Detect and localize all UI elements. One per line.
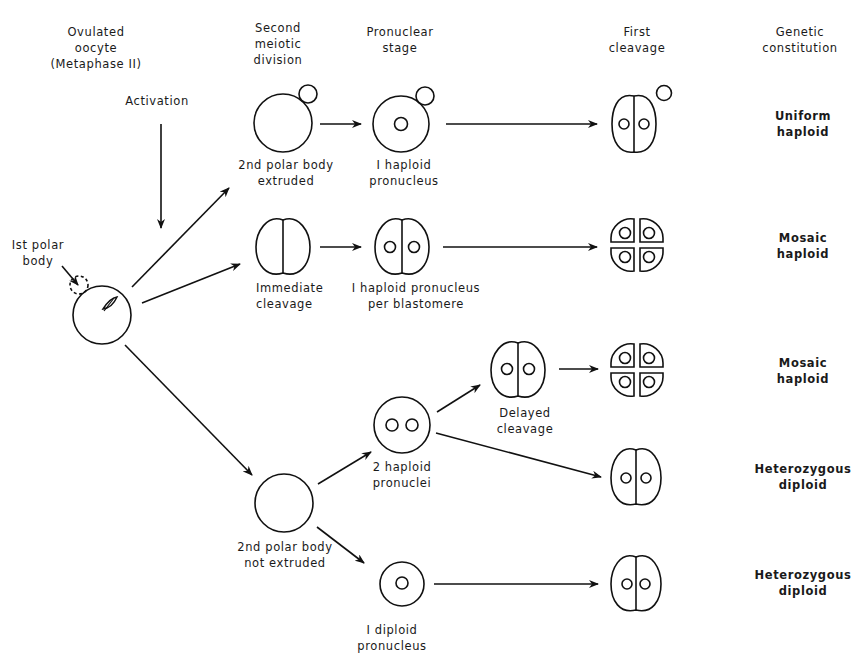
label-line: pronuclei: [373, 475, 432, 491]
header-line: Second: [254, 20, 303, 36]
header-line: Pronuclear: [366, 24, 433, 40]
label-one-diploid: I diploid pronucleus: [357, 622, 426, 654]
label-line: not extruded: [237, 555, 332, 571]
parthenogenesis-diagram: Ovulated oocyte (Metaphase II) Second me…: [0, 0, 868, 671]
outcome-line: diploid: [755, 477, 852, 493]
label-line: Delayed: [497, 405, 554, 421]
header-line: division: [254, 52, 303, 68]
polar-body-pointer-arrow: [62, 266, 78, 285]
label-line: pronucleus: [369, 173, 438, 189]
label-line: I diploid: [357, 622, 426, 638]
label-one-haploid: I haploid pronucleus: [369, 157, 438, 189]
header-line: (Metaphase II): [50, 56, 141, 72]
header-pronuclear-stage: Pronuclear stage: [366, 24, 433, 56]
header-ovulated-oocyte: Ovulated oocyte (Metaphase II): [50, 24, 141, 72]
outcome-line: Heterozygous: [755, 567, 852, 583]
outcome-5: Heterozygous diploid: [755, 567, 852, 599]
header-line: meiotic: [254, 36, 303, 52]
cell-extruded: [254, 85, 317, 152]
label-two-haploid: 2 haploid pronuclei: [373, 459, 432, 491]
two-cell-delayed: [491, 342, 545, 397]
label-line: body: [12, 253, 64, 269]
two-cell-heterozygous-2: [611, 556, 661, 611]
label-line: Ist polar: [12, 237, 64, 253]
two-cell-heterozygous-1: [611, 449, 661, 505]
label-per-blastomere: I haploid pronucleus per blastomere: [352, 280, 480, 312]
header-first-cleavage: First cleavage: [609, 24, 666, 56]
label-line: Immediate: [256, 280, 323, 296]
label-line: extruded: [238, 173, 333, 189]
label-extruded: 2nd polar body extruded: [238, 157, 333, 189]
outcome-line: Mosaic: [777, 355, 829, 371]
outcome-line: haploid: [777, 246, 829, 262]
label-line: I haploid: [369, 157, 438, 173]
header-genetic-constitution: Genetic constitution: [762, 24, 837, 56]
label-line: 2nd polar body: [237, 539, 332, 555]
header-second-meiotic-division: Second meiotic division: [254, 20, 303, 68]
label-not-extruded: 2nd polar body not extruded: [237, 539, 332, 571]
header-line: First: [609, 24, 666, 40]
arrow-to-delayed: [437, 385, 480, 412]
outcome-line: haploid: [775, 124, 831, 140]
outcome-line: Uniform: [775, 108, 831, 124]
header-line: constitution: [762, 40, 837, 56]
four-cell-mosaic-1: [611, 219, 663, 272]
activation-label: Activation: [125, 93, 189, 109]
first-polar-body-label: Ist polar body: [12, 237, 64, 269]
outcome-line: haploid: [777, 371, 829, 387]
two-cell-immediate: [256, 219, 310, 274]
outcome-3: Mosaic haploid: [777, 355, 829, 387]
label-line: cleavage: [497, 421, 554, 437]
two-cell-uniform: [612, 86, 672, 153]
four-cell-mosaic-2: [611, 344, 663, 397]
ovulated-oocyte: [62, 266, 131, 344]
header-line: stage: [366, 40, 433, 56]
label-line: 2 haploid: [373, 459, 432, 475]
cell-one-haploid: [373, 87, 434, 152]
outcome-line: diploid: [755, 583, 852, 599]
label-delayed: Delayed cleavage: [497, 405, 554, 437]
arrow-to-immediate: [142, 264, 240, 303]
label-line: 2nd polar body: [238, 157, 333, 173]
header-line: cleavage: [609, 40, 666, 56]
outcome-4: Heterozygous diploid: [755, 461, 852, 493]
label-immediate: Immediate cleavage: [256, 280, 323, 312]
cell-not-extruded: [255, 474, 313, 532]
outcome-line: Heterozygous: [755, 461, 852, 477]
outcome-line: Mosaic: [777, 230, 829, 246]
label-line: per blastomere: [352, 296, 480, 312]
arrow-to-heterozygous-1: [436, 433, 601, 477]
cell-one-diploid: [380, 562, 424, 606]
header-line: Genetic: [762, 24, 837, 40]
label-line: cleavage: [256, 296, 323, 312]
outcome-2: Mosaic haploid: [777, 230, 829, 262]
arrow-to-not-extruded: [125, 345, 252, 475]
outcome-1: Uniform haploid: [775, 108, 831, 140]
two-cell-per-blastomere: [375, 219, 429, 274]
label-line: I haploid pronucleus: [352, 280, 480, 296]
header-line: oocyte: [50, 40, 141, 56]
cell-two-haploid: [374, 397, 430, 453]
header-line: Ovulated: [50, 24, 141, 40]
label-line: pronucleus: [357, 638, 426, 654]
arrow-to-extruded: [132, 188, 229, 287]
